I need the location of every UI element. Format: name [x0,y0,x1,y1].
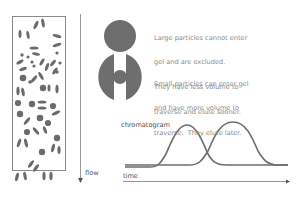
note-line: and have more volume to [154,104,249,112]
small-particles-note: Small particles can enter gel and have m… [154,63,249,154]
note-line: traverse. They elute later. [154,129,249,137]
time-axis [123,180,290,184]
chromatogram-label: chromatogram [121,121,170,129]
gel-bead-illustration [98,20,141,100]
note-line: Small particles can enter gel [154,80,249,88]
column-illustration [0,0,300,197]
flow-arrow [78,14,83,183]
flow-label: flow [85,169,99,177]
time-axis-label: time [123,172,138,180]
particles [14,18,61,181]
note-line: Large particles cannot enter [154,34,247,42]
diagram: flow Large particles cannot enter gel an… [0,0,300,197]
